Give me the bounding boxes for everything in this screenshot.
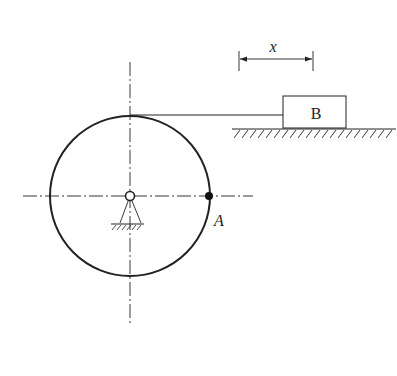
- pin-joint: [126, 192, 135, 201]
- mechanics-diagram: B x: [0, 0, 397, 376]
- ground-hatch: [232, 129, 396, 138]
- displacement-label: x: [268, 38, 276, 55]
- point-a: [205, 192, 213, 200]
- point-a-label: A: [213, 212, 224, 229]
- pin-support: [111, 196, 144, 230]
- block-b-label: B: [311, 105, 322, 122]
